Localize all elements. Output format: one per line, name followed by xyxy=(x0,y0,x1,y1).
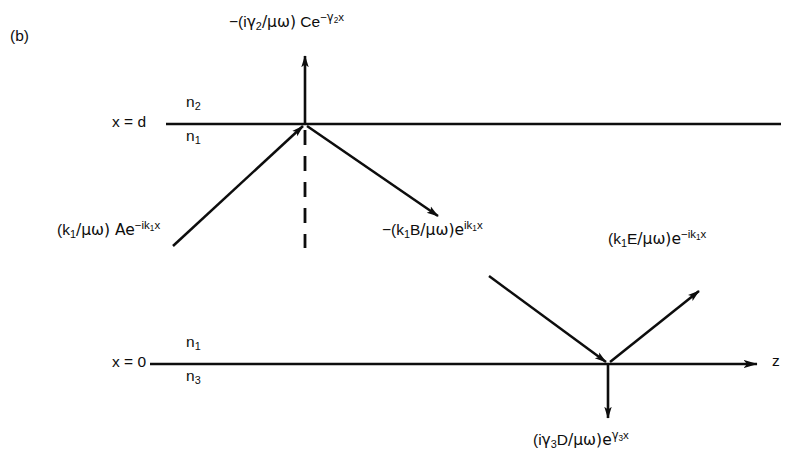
label-c-exp-gamma: γ xyxy=(327,10,334,24)
label-outgoing-E: (k1E/μω)e−ik1x xyxy=(608,231,706,247)
label-b-amplitude: B xyxy=(410,221,420,238)
label-c-prefactor: (i xyxy=(238,13,247,30)
label-interface-x-0: x = 0 xyxy=(112,354,146,370)
ray-outgoing-E xyxy=(610,291,699,362)
label-evanescent-lower-D: (iγ3D/μω)eγ3x xyxy=(533,432,629,448)
label-e-exp-sign: − xyxy=(681,228,688,240)
label-reflected-B: −(k1B/μω)eik1x xyxy=(382,222,483,238)
label-interface-x-d: x = d xyxy=(112,114,146,130)
label-medium-n2: n2 xyxy=(186,94,201,110)
label-n1-lower-symbol: n xyxy=(186,333,195,350)
label-c-gamma: γ xyxy=(247,13,256,31)
label-b-sign: − xyxy=(382,221,391,238)
label-a-denominator: /μω) Ae xyxy=(76,221,135,239)
ray-reflected-B xyxy=(307,126,438,216)
label-n2-symbol: n xyxy=(186,93,195,110)
figure-canvas: (b) −(iγ2/μω) Ce−γ2x x = d n2 n1 (k1/μω)… xyxy=(0,0,805,468)
label-d-denominator: /μω)e xyxy=(568,431,612,449)
label-n2-index: 2 xyxy=(195,100,201,112)
label-medium-n3: n3 xyxy=(186,368,201,384)
ray-downgoing-to-x0 xyxy=(489,276,606,362)
label-b-prefactor: (k xyxy=(391,221,404,238)
label-e-exp-body: ik xyxy=(688,228,696,240)
label-c-exp-sign: − xyxy=(320,11,327,23)
label-z-axis: z xyxy=(772,353,780,369)
label-medium-n1-lower: n1 xyxy=(186,334,201,350)
label-a-prefactor: (k xyxy=(57,221,70,238)
label-evanescent-upper-C: −(iγ2/μω) Ce−γ2x xyxy=(229,14,344,30)
label-b-exp-var: x xyxy=(477,219,483,231)
label-a-exp-body: ik xyxy=(142,219,150,231)
panel-letter: (b) xyxy=(10,28,29,44)
label-d-gamma: γ xyxy=(542,431,551,449)
label-e-denominator: /μω)e xyxy=(637,230,681,248)
label-n1-upper-symbol: n xyxy=(186,127,195,144)
label-c-amplitude: Ce xyxy=(296,13,320,30)
label-c-denominator: /μω) xyxy=(262,13,296,31)
label-n3-symbol: n xyxy=(186,367,195,384)
label-e-amplitude: E xyxy=(627,230,637,247)
label-n3-index: 3 xyxy=(195,374,201,386)
label-n1-upper-index: 1 xyxy=(195,134,201,146)
label-e-exp-var: x xyxy=(701,228,707,240)
label-incident-A: (k1/μω) Ae−ik1x xyxy=(57,222,160,238)
label-e-prefactor: (k xyxy=(608,230,621,247)
label-c-exp-var: x xyxy=(338,11,344,23)
label-d-exp-var: x xyxy=(623,429,629,441)
label-a-exp-sign: − xyxy=(135,219,142,231)
label-d-prefactor: (i xyxy=(533,431,542,448)
label-c-sign: − xyxy=(229,13,238,30)
label-medium-n1-upper: n1 xyxy=(186,128,201,144)
label-n1-lower-index: 1 xyxy=(195,340,201,352)
label-a-exp-var: x xyxy=(154,219,160,231)
label-d-amplitude: D xyxy=(557,431,568,448)
label-b-denominator: /μω)e xyxy=(420,221,464,239)
